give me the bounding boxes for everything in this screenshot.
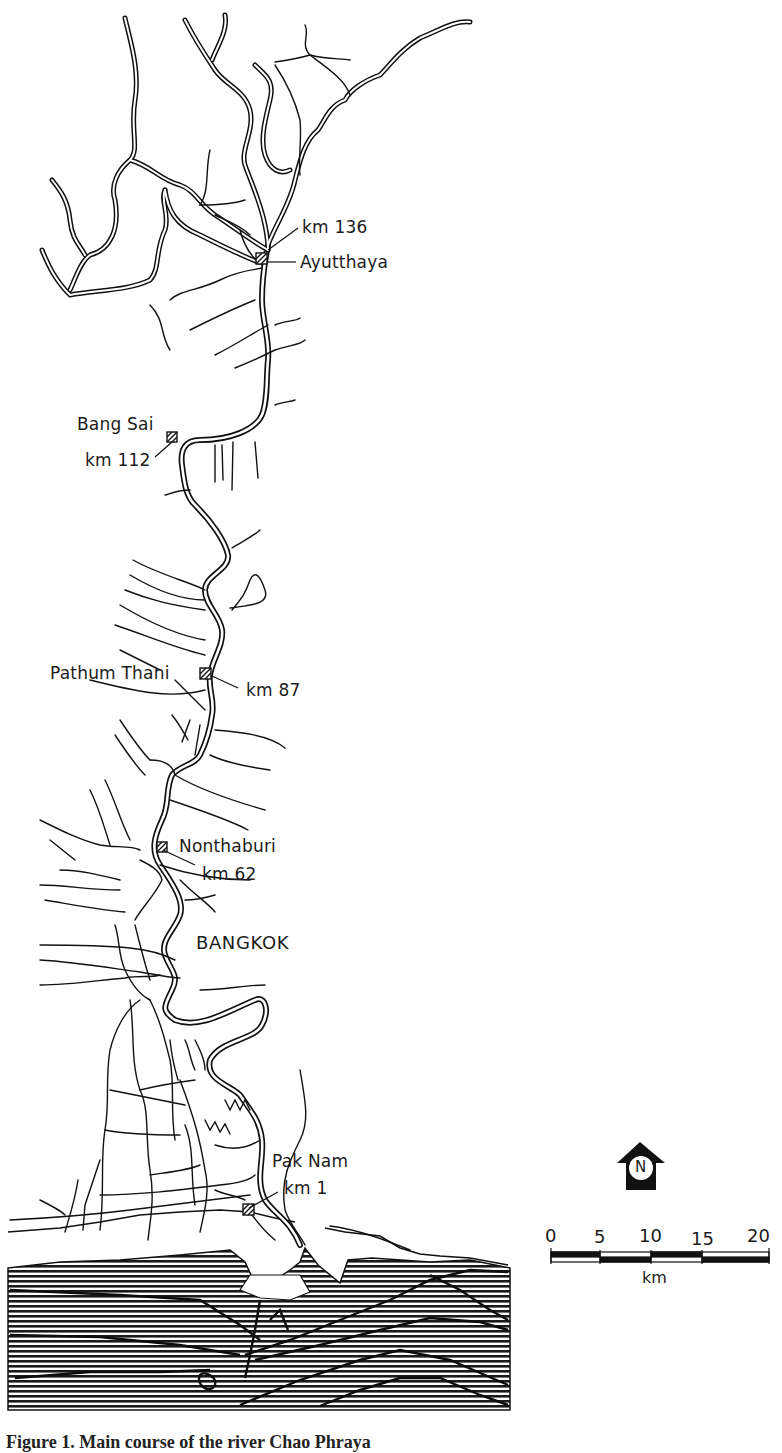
- town-marker-ayutthaya: [256, 253, 267, 264]
- coastline: [8, 1210, 508, 1265]
- label-ayutthaya-km: km 136: [302, 217, 367, 237]
- town-marker-pathum-thani: [200, 668, 211, 679]
- north-arrow-letter: N: [635, 1158, 646, 1176]
- figure-caption: Figure 1. Main course of the river Chao …: [6, 1432, 371, 1453]
- label-pak-nam-km: km 1: [284, 1178, 327, 1198]
- scale-tick-15: 15: [691, 1228, 714, 1249]
- town-marker-nonthaburi: [157, 842, 167, 852]
- label-bang-sai: Bang Sai: [77, 414, 154, 434]
- scale-tick-20: 20: [747, 1225, 770, 1246]
- gulf-sea-area: [8, 1248, 510, 1410]
- label-ayutthaya: Ayutthaya: [300, 252, 388, 272]
- main-river-chao-phraya: [154, 245, 300, 1245]
- town-marker-bang-sai: [167, 432, 177, 442]
- scale-bar: [551, 1248, 769, 1264]
- leader-lines: [155, 228, 298, 1208]
- scale-tick-5: 5: [594, 1226, 605, 1247]
- scale-tick-10: 10: [639, 1225, 662, 1246]
- label-pathum-thani-km: km 87: [246, 680, 300, 700]
- label-bang-sai-km: km 112: [85, 450, 150, 470]
- label-bangkok: BANGKOK: [196, 932, 289, 953]
- scale-unit: km: [642, 1268, 667, 1287]
- label-nonthaburi-km: km 62: [202, 864, 256, 884]
- label-pathum-thani: Pathum Thani: [50, 663, 170, 683]
- label-nonthaburi: Nonthaburi: [179, 836, 276, 856]
- scale-tick-0: 0: [545, 1225, 556, 1246]
- label-pak-nam: Pak Nam: [272, 1151, 348, 1171]
